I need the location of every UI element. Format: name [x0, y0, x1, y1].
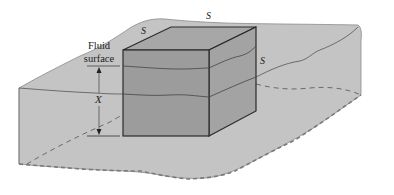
diagram-canvas: S S S Fluid surface X: [0, 0, 394, 195]
fluid-body-diagram: [0, 0, 394, 195]
depth-label: X: [95, 94, 102, 105]
surface-label-right: S: [260, 56, 265, 66]
fluid-surface-label-line1: Fluid: [77, 41, 121, 52]
surface-label-top: S: [206, 11, 211, 21]
cube-front-face: [123, 50, 209, 136]
fluid-surface-label-line2: surface: [77, 54, 121, 65]
surface-label-left: S: [141, 26, 146, 36]
